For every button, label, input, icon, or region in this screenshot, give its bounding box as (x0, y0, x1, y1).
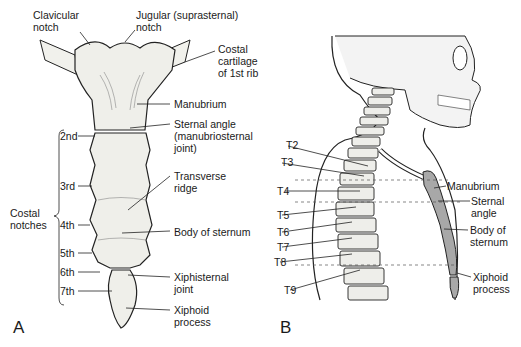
vertebra-t8: T8 (274, 256, 286, 268)
label-body-of-sternum: Body of sternum (174, 226, 250, 238)
label-b-sternal-angle: Sternal angle (471, 195, 504, 219)
panel-letter-a: A (13, 318, 24, 338)
vertebra-t7: T7 (277, 241, 289, 253)
notch-7th: 7th (60, 285, 75, 297)
notch-5th: 5th (60, 247, 75, 259)
notch-4th: 4th (60, 219, 75, 231)
label-xiphoid-process: Xiphoid process (174, 304, 211, 328)
vertebra-t4: T4 (277, 185, 289, 197)
notch-2nd: 2nd (60, 130, 78, 142)
vertebra-t2: T2 (286, 139, 298, 151)
vertebra-t5: T5 (277, 209, 289, 221)
panel-b-lateral-view: T2 T3 T4 T5 T6 T7 T8 T9 Manubrium Sterna… (260, 0, 521, 347)
notch-6th: 6th (60, 266, 75, 278)
label-xiphisternal-joint: Xiphisternal joint (174, 271, 229, 295)
label-sternal-angle: Sternal angle (manubriosternal joint) (174, 118, 253, 154)
vertebra-t9: T9 (284, 284, 296, 296)
panel-letter-b: B (280, 318, 291, 338)
label-transverse-ridge: Transverse ridge (174, 170, 226, 194)
panel-a-anterior-sternum: Clavicular notch Jugular (suprasternal) … (0, 0, 260, 347)
label-jugular-notch: Jugular (suprasternal) notch (136, 9, 238, 33)
label-clavicular-notch: Clavicular notch (33, 9, 79, 33)
vertebra-t3: T3 (281, 156, 293, 168)
label-b-xiphoid-process: Xiphoid process (473, 271, 510, 295)
label-costal-cartilage: Costal cartilage of 1st rib (218, 43, 258, 79)
label-b-manubrium: Manubrium (447, 180, 500, 192)
notch-3rd: 3rd (60, 180, 75, 192)
label-manubrium: Manubrium (174, 98, 227, 110)
label-costal-notches: Costal notches (10, 207, 47, 231)
label-b-body-of-sternum: Body of sternum (470, 224, 508, 248)
vertebra-t6: T6 (277, 226, 289, 238)
